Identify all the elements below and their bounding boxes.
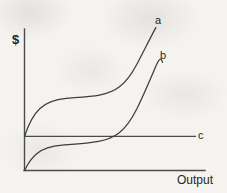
plot-canvas xyxy=(0,0,227,193)
curve-b-label: b xyxy=(160,50,166,61)
curve-b-path xyxy=(25,59,163,170)
curve-a-path xyxy=(25,28,156,137)
y-axis-label: $ xyxy=(12,33,19,46)
x-axis-label: Output xyxy=(177,174,213,186)
line-c-label: c xyxy=(198,130,204,141)
curve-a-label: a xyxy=(155,15,161,26)
economics-cost-curve-figure: $ Output a b c xyxy=(0,0,227,193)
